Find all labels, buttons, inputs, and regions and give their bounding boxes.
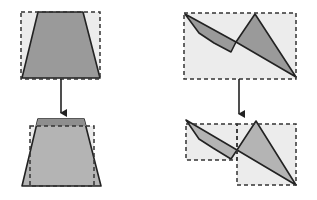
bounding-box-diagram <box>0 0 317 200</box>
cap-band-shape <box>36 119 86 126</box>
